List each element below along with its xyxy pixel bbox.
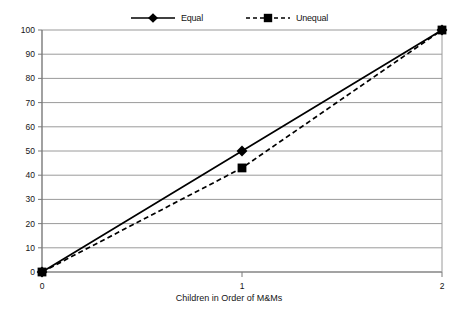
svg-text:80: 80	[26, 73, 36, 83]
x-tick-marks	[42, 272, 442, 277]
svg-text:40: 40	[26, 170, 36, 180]
plot-area: 1009080706050403020100 012 Children in O…	[0, 0, 458, 314]
svg-text:10: 10	[26, 243, 36, 253]
svg-text:100: 100	[21, 25, 35, 35]
svg-text:0: 0	[30, 267, 35, 277]
svg-text:20: 20	[26, 219, 36, 229]
svg-text:50: 50	[26, 146, 36, 156]
y-tick-labels: 1009080706050403020100	[21, 25, 42, 277]
svg-text:70: 70	[26, 98, 36, 108]
svg-text:90: 90	[26, 49, 36, 59]
svg-text:60: 60	[26, 122, 36, 132]
svg-text:2: 2	[440, 281, 445, 291]
svg-text:0: 0	[40, 281, 45, 291]
x-axis-title: Children in Order of M&Ms	[176, 293, 283, 303]
x-tick-labels: 012	[40, 281, 445, 291]
svg-text:1: 1	[240, 281, 245, 291]
line-chart: Equal Unequal 1009080706050403020100 012…	[0, 0, 458, 314]
svg-text:30: 30	[26, 194, 36, 204]
